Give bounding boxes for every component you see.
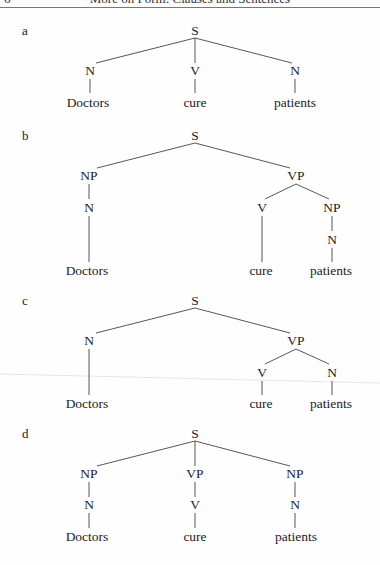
edge — [195, 441, 290, 466]
node-s: S — [191, 293, 199, 308]
node-v: V — [257, 200, 267, 215]
word-cure: cure — [249, 263, 272, 278]
node-n: N — [327, 365, 337, 380]
tree-b: b S NP VP N V NP N Doctors cure patients — [22, 128, 352, 278]
edge — [195, 143, 290, 168]
word-patients: patients — [310, 263, 352, 278]
node-s: S — [191, 128, 199, 143]
edge — [97, 143, 195, 168]
tree-label-b: b — [22, 128, 29, 143]
node-n: N — [84, 497, 94, 512]
node-s: S — [191, 426, 199, 441]
node-v: V — [257, 365, 267, 380]
tree-label-c: c — [22, 293, 28, 308]
node-np: NP — [323, 200, 340, 215]
word-doctors: Doctors — [66, 396, 109, 411]
tree-c: c S N VP V N Doctors cure patients — [22, 293, 352, 411]
edge — [296, 349, 329, 364]
edge — [96, 38, 195, 63]
word-cure: cure — [249, 396, 272, 411]
edge — [195, 38, 292, 63]
word-patients: patients — [274, 95, 316, 110]
node-n: N — [84, 333, 94, 348]
edge — [265, 184, 296, 199]
node-n: N — [290, 497, 300, 512]
syntax-trees-figure: a S N V N Doctors cure patients b S NP V… — [0, 0, 380, 565]
node-vp: VP — [186, 466, 203, 481]
edge — [296, 184, 329, 199]
node-n: N — [290, 63, 300, 78]
word-patients: patients — [275, 529, 317, 544]
edge — [265, 349, 296, 364]
edge — [96, 308, 195, 333]
node-n: N — [85, 63, 95, 78]
scan-artifact-line — [0, 374, 380, 383]
word-cure: cure — [183, 529, 206, 544]
word-cure: cure — [183, 95, 206, 110]
tree-d: d S NP VP NP N V N Doctors cure patients — [22, 426, 317, 544]
node-vp: VP — [287, 333, 304, 348]
edge — [195, 308, 290, 333]
tree-a: a S N V N Doctors cure patients — [22, 23, 316, 110]
node-np: NP — [286, 466, 303, 481]
node-np: NP — [80, 168, 97, 183]
node-v: V — [190, 63, 200, 78]
book-page: 6 More on Form: Clauses and Sentences a … — [0, 0, 380, 565]
node-n: N — [327, 232, 337, 247]
node-s: S — [191, 23, 199, 38]
tree-label-d: d — [22, 426, 29, 441]
node-v: V — [190, 497, 200, 512]
tree-label-a: a — [22, 23, 28, 38]
word-patients: patients — [310, 396, 352, 411]
word-doctors: Doctors — [66, 263, 109, 278]
edge — [97, 441, 195, 466]
word-doctors: Doctors — [66, 529, 109, 544]
word-doctors: Doctors — [67, 95, 110, 110]
node-vp: VP — [287, 168, 304, 183]
node-np: NP — [80, 466, 97, 481]
node-n: N — [84, 200, 94, 215]
